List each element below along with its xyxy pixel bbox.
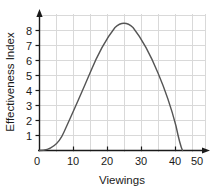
y-axis-arrow (36, 9, 42, 17)
x-tick-label: 30 (135, 155, 147, 167)
x-tick-label: 20 (101, 155, 113, 167)
y-tick-label: 7 (26, 40, 32, 52)
y-tick-labels: 1 2 3 4 5 6 7 8 (26, 25, 32, 142)
horizontal-grid-lines (39, 16, 206, 136)
x-tick-label: 10 (67, 155, 79, 167)
y-axis-title: Effectiveness Index (4, 32, 16, 132)
x-tick-label: 50 (191, 155, 203, 167)
x-axis-title: Viewings (99, 174, 145, 186)
y-tick-label: 1 (26, 130, 32, 142)
x-tick-label: 40 (169, 155, 181, 167)
y-tick-label: 8 (26, 25, 32, 37)
effectiveness-index-chart: 1 2 3 4 5 6 7 8 0 10 20 30 40 50 Viewing… (0, 0, 216, 190)
y-tick-label: 4 (26, 85, 32, 97)
y-tick-label: 3 (26, 100, 32, 112)
effectiveness-curve (40, 23, 183, 150)
chart-container: 1 2 3 4 5 6 7 8 0 10 20 30 40 50 Viewing… (0, 0, 216, 190)
x-tick-labels: 0 10 20 30 40 50 (34, 155, 203, 167)
y-tick-label: 6 (26, 55, 32, 67)
x-tick-label: 0 (34, 155, 40, 167)
y-tick-label: 2 (26, 115, 32, 127)
y-tick-label: 5 (26, 70, 32, 82)
